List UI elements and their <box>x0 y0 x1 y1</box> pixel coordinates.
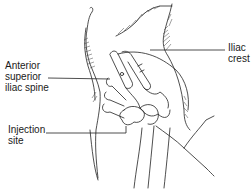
label-iliac-crest: Iliac crest <box>228 42 250 64</box>
iliac-crest-contour <box>163 4 190 130</box>
label-anterior-superior-iliac-spine: Anterior superior iliac spine <box>5 60 49 93</box>
leader-asis <box>48 78 110 79</box>
body-contour <box>84 7 100 180</box>
label-injection-site: Injection site <box>8 124 45 146</box>
hip-hand-illustration <box>0 0 252 191</box>
hand <box>102 51 214 188</box>
waist-shading <box>116 6 172 36</box>
anatomical-figure: Anterior superior iliac spine Iliac cres… <box>0 0 252 191</box>
